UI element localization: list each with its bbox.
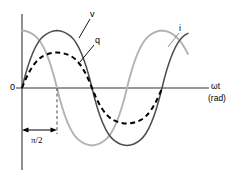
- leader-line-v: [79, 19, 90, 38]
- waveform-figure: 0 v q i ωt (rad) π/2: [0, 0, 229, 173]
- phase-shift-label: π/2: [31, 136, 43, 145]
- curve-label-q: q: [95, 36, 100, 45]
- x-axis-label-rad: (rad): [208, 94, 226, 103]
- quarter-period-phase-arrow: [22, 127, 57, 132]
- waveform-plot: [0, 0, 229, 173]
- curve-label-v: v: [90, 10, 95, 19]
- origin-label: 0: [10, 83, 15, 92]
- curve-label-i: i: [179, 24, 181, 33]
- x-axis-label-omega-t: ωt: [211, 82, 220, 91]
